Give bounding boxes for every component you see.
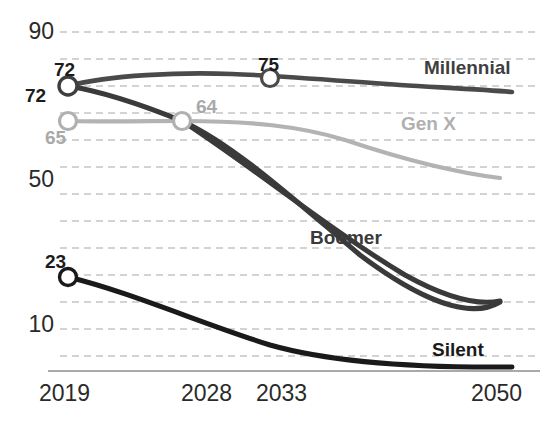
x-axis-tick-2033: 2033 <box>256 382 307 405</box>
value-label-millennial-2019: 72 <box>54 60 75 79</box>
y-axis-tick-90: 90 <box>14 20 54 43</box>
series-label-boomer: Boomer <box>310 228 382 247</box>
value-label-boomer-2019: 72 <box>25 86 46 105</box>
y-axis-tick-50: 50 <box>14 168 54 191</box>
value-label-silent-2019: 23 <box>45 252 66 271</box>
series-label-silent: Silent <box>432 340 484 359</box>
value-label-genx-2019: 65 <box>45 128 66 147</box>
x-axis-tick-2019: 2019 <box>39 382 90 405</box>
value-label-millennial-2033: 75 <box>258 55 279 74</box>
x-axis-tick-2050: 2050 <box>471 382 522 405</box>
x-axis-tick-2028: 2028 <box>181 382 232 405</box>
generation-line-chart: 90 50 10 2019 2028 2033 2050 72 72 65 64… <box>0 0 555 426</box>
y-axis-tick-10: 10 <box>14 313 54 336</box>
value-label-genx-2028: 64 <box>196 97 217 116</box>
series-label-millennial: Millennial <box>424 58 511 77</box>
series-label-genx: Gen X <box>401 114 456 133</box>
data-point-marker-genx-2028 <box>174 113 191 130</box>
